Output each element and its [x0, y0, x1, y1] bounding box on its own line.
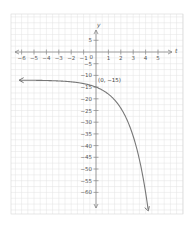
y-axis-label: y	[96, 21, 101, 29]
svg-text:−2: −2	[67, 55, 75, 61]
svg-text:2: 2	[119, 55, 123, 61]
svg-text:4: 4	[144, 55, 148, 61]
svg-text:−5: −5	[84, 61, 93, 67]
svg-text:5: 5	[89, 37, 93, 43]
axes	[15, 30, 172, 208]
svg-text:−3: −3	[55, 55, 64, 61]
svg-text:−20: −20	[80, 96, 92, 102]
svg-text:−25: −25	[80, 108, 92, 114]
svg-text:−50: −50	[80, 166, 92, 172]
x-axis-label: t	[175, 47, 178, 54]
svg-text:−10: −10	[80, 72, 92, 78]
svg-text:−4: −4	[42, 55, 51, 61]
svg-text:−55: −55	[80, 178, 92, 184]
exponential-graph: −6−5−4−3−2−11234505−5−10−15−20−25−30−35−…	[0, 0, 194, 229]
svg-text:−30: −30	[80, 119, 92, 125]
svg-text:−5: −5	[30, 55, 39, 61]
svg-text:5: 5	[156, 55, 160, 61]
svg-text:−45: −45	[80, 154, 92, 160]
grid	[11, 14, 183, 214]
svg-text:−6: −6	[18, 55, 27, 61]
point-label: (0, −15)	[98, 77, 121, 83]
svg-text:1: 1	[107, 55, 111, 61]
svg-text:0: 0	[90, 54, 94, 60]
svg-text:−40: −40	[80, 143, 92, 149]
svg-text:−35: −35	[80, 131, 92, 137]
svg-text:−60: −60	[80, 189, 92, 195]
svg-text:3: 3	[131, 55, 135, 61]
